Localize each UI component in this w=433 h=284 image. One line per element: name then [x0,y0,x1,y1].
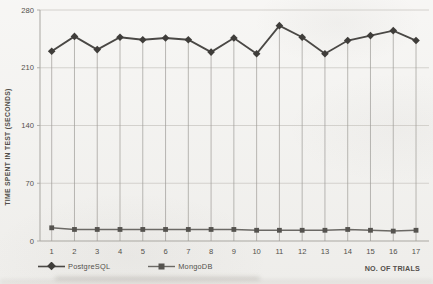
mongodb-marker [95,227,100,232]
mongodb-marker [209,227,214,232]
postgresql-marker [93,46,101,54]
mongodb-marker [277,228,282,233]
x-tick-label: 14 [343,247,351,256]
x-tick-label: 16 [389,247,397,256]
mongodb-marker [49,225,54,230]
mongodb-marker [118,227,123,232]
y-tick-label: 70 [26,179,34,188]
chart-figure: 0701402102801234567891011121314151617 TI… [0,0,433,284]
postgresql-marker [139,36,147,44]
legend-label-mongodb: MongoDB [178,262,212,271]
x-tick-label: 2 [72,247,76,256]
x-tick-label: 11 [275,247,283,256]
y-axis-title: TIME SPENT IN TEST (SECONDS) [1,63,15,231]
y-tick-label: 210 [21,63,34,72]
x-tick-label: 17 [412,247,420,256]
chart-legend: PostgreSQL MongoDB [38,262,213,271]
mongodb-marker [140,227,145,232]
mongodb-marker [323,228,328,233]
postgresql-marker [116,33,124,41]
x-tick-label: 13 [321,247,329,256]
mongodb-marker [231,227,236,232]
x-tick-label: 6 [163,247,167,256]
legend-item-mongodb: MongoDB [148,262,212,271]
x-tick-label: 4 [118,247,122,256]
legend-label-postgresql: PostgreSQL [68,262,110,271]
x-tick-label: 1 [50,247,54,256]
x-tick-label: 5 [141,247,145,256]
x-tick-label: 7 [186,247,190,256]
postgresql-legend-marker-icon [38,262,65,271]
x-tick-label: 15 [366,247,374,256]
y-tick-label: 0 [30,237,34,246]
mongodb-marker [300,228,305,233]
x-axis-title: NO. OF TRIALS [365,264,420,273]
mongodb-legend-marker-icon [148,262,175,271]
x-tick-label: 9 [232,247,236,256]
mongodb-marker [345,227,350,232]
chart-plot: 0701402102801234567891011121314151617 [0,0,433,284]
postgresql-marker [367,32,375,40]
mongodb-marker [163,227,168,232]
postgresql-marker [344,37,352,45]
x-tick-label: 10 [252,247,260,256]
y-tick-label: 280 [21,6,34,15]
postgresql-marker [162,34,170,42]
mongodb-marker [254,228,259,233]
x-tick-label: 12 [298,247,306,256]
x-tick-label: 8 [209,247,213,256]
postgresql-marker [389,27,397,35]
mongodb-marker [414,228,419,233]
mongodb-marker [186,227,191,232]
y-tick-label: 140 [21,121,34,130]
x-tick-label: 3 [95,247,99,256]
mongodb-marker [368,228,373,233]
mongodb-marker [391,229,396,234]
legend-item-postgresql: PostgreSQL [38,262,110,271]
postgresql-marker [185,36,193,44]
mongodb-marker [72,227,77,232]
photo-edge-artifact [0,280,433,284]
postgresql-marker [412,37,420,45]
